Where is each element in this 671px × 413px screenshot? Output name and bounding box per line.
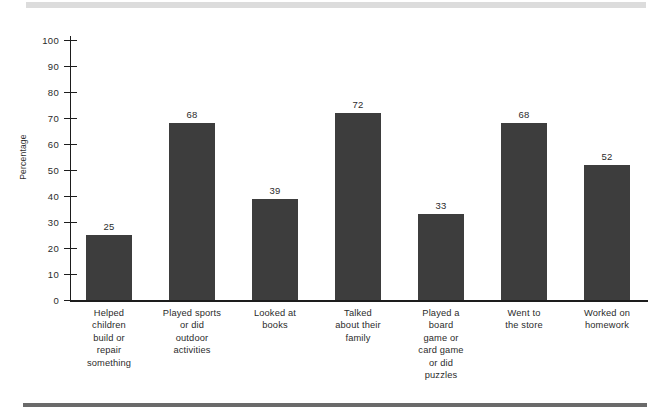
bar [86, 235, 132, 300]
y-axis-tick-label: 0 [28, 295, 59, 306]
y-axis-tick [64, 300, 77, 301]
bar [335, 113, 381, 300]
x-axis-category-label: Worked onhomework [565, 307, 649, 332]
x-axis-label-line: Looked at [254, 308, 296, 318]
x-axis-label-line: outdoor [176, 333, 209, 343]
y-axis-tick [64, 66, 77, 67]
bar [584, 165, 630, 300]
x-axis-category-label: Played aboardgame orcard gameor didpuzzl… [399, 307, 483, 381]
x-axis-category-label: Looked atbooks [233, 307, 317, 332]
x-axis-label-line: homework [585, 320, 629, 330]
x-axis-label-line: repair [97, 345, 122, 355]
x-axis-label-line: Helped [94, 308, 124, 318]
x-axis-category-label: Talkedabout theirfamily [316, 307, 400, 344]
x-axis-label-line: or did [180, 320, 204, 330]
bar-value-label: 39 [245, 185, 305, 196]
x-axis-line [70, 300, 648, 302]
y-axis-tick-label: 50 [28, 165, 59, 176]
x-axis-label-line: children [92, 320, 126, 330]
x-axis-label-line: Played sports [163, 308, 221, 318]
y-axis-tick-label: 70 [28, 113, 59, 124]
x-axis-label-line: Played a [422, 308, 459, 318]
x-axis-label-line: game or [423, 333, 458, 343]
bar [252, 199, 298, 300]
x-axis-label-line: activities [173, 345, 210, 355]
x-axis-label-line: about their [335, 320, 381, 330]
bar-value-label: 52 [577, 151, 637, 162]
x-axis-label-line: puzzles [425, 370, 458, 380]
y-axis-tick-label: 90 [28, 61, 59, 72]
y-axis-tick [64, 196, 77, 197]
y-axis-tick-label: 80 [28, 87, 59, 98]
y-axis-tick-label: 40 [28, 191, 59, 202]
x-axis-label-line: Talked [344, 308, 372, 318]
bar-value-label: 72 [328, 99, 388, 110]
y-axis-tick [64, 274, 77, 275]
x-axis-label-line: board [429, 320, 454, 330]
x-axis-label-line: or did [429, 358, 453, 368]
y-axis-tick [64, 248, 77, 249]
y-axis-tick [64, 40, 77, 41]
y-axis-title: Percentage [18, 117, 28, 197]
y-axis-tick [64, 92, 77, 93]
x-axis-label-line: the store [505, 320, 543, 330]
bar-chart-figure: Percentage 0102030405060708090100 256839… [0, 0, 671, 413]
y-axis-tick-label: 20 [28, 243, 59, 254]
x-axis-category-label: Went tothe store [482, 307, 566, 332]
bar-value-label: 33 [411, 200, 471, 211]
bar-value-label: 25 [79, 221, 139, 232]
bar-value-label: 68 [162, 109, 222, 120]
bar [418, 214, 464, 300]
plot-area: Percentage 0102030405060708090100 256839… [0, 0, 671, 413]
x-axis-category-label: Helpedchildrenbuild orrepairsomething [67, 307, 151, 369]
y-axis-tick [64, 222, 77, 223]
y-axis-tick-label: 30 [28, 217, 59, 228]
x-axis-label-line: Went to [508, 308, 541, 318]
x-axis-label-line: card game [418, 345, 463, 355]
y-axis-tick-label: 100 [28, 35, 59, 46]
x-axis-label-line: books [262, 320, 288, 330]
y-axis-tick [64, 144, 77, 145]
x-axis-category-label: Played sportsor didoutdooractivities [150, 307, 234, 357]
x-axis-label-line: family [345, 333, 370, 343]
bar [501, 123, 547, 300]
x-axis-label-line: build or [93, 333, 125, 343]
bar-value-label: 68 [494, 109, 554, 120]
y-axis-tick [64, 170, 77, 171]
x-axis-label-line: something [87, 358, 131, 368]
y-axis-tick-label: 60 [28, 139, 59, 150]
bar [169, 123, 215, 300]
y-axis-line [70, 36, 71, 301]
y-axis-tick [64, 118, 77, 119]
y-axis-tick-label: 10 [28, 269, 59, 280]
x-axis-label-line: Worked on [584, 308, 630, 318]
